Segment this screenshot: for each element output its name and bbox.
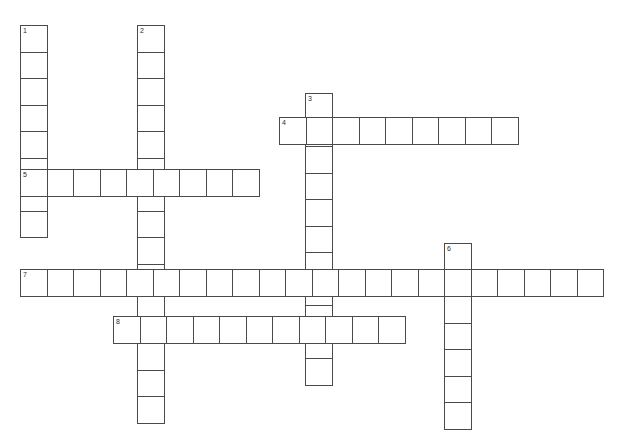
crossword-cell[interactable]	[444, 269, 472, 297]
crossword-cell[interactable]	[137, 105, 165, 133]
crossword-cell[interactable]	[140, 316, 168, 344]
crossword-cell[interactable]: 1	[20, 25, 48, 53]
clue-number-6: 6	[447, 245, 451, 253]
crossword-cell[interactable]	[471, 269, 499, 297]
crossword-cell[interactable]	[305, 146, 333, 174]
crossword-cell[interactable]	[444, 323, 472, 351]
crossword-cell[interactable]	[305, 199, 333, 227]
crossword-cell[interactable]	[524, 269, 552, 297]
crossword-cell[interactable]	[20, 105, 48, 133]
crossword-cell[interactable]	[232, 169, 260, 197]
crossword-cell[interactable]	[100, 169, 128, 197]
crossword-cell[interactable]	[137, 370, 165, 398]
crossword-cell[interactable]	[325, 316, 353, 344]
crossword-cell[interactable]	[444, 349, 472, 377]
crossword-cell[interactable]: 5	[20, 169, 48, 197]
crossword-cell[interactable]	[359, 117, 387, 145]
clue-number-8: 8	[116, 318, 120, 326]
crossword-cell[interactable]	[126, 269, 154, 297]
crossword-cell[interactable]	[193, 316, 221, 344]
crossword-cell[interactable]	[153, 269, 181, 297]
crossword-cell[interactable]	[444, 376, 472, 404]
crossword-cell[interactable]	[465, 117, 493, 145]
crossword-cell[interactable]	[338, 269, 366, 297]
crossword-cell[interactable]	[179, 169, 207, 197]
crossword-cell[interactable]: 4	[279, 117, 307, 145]
crossword-cell[interactable]	[378, 316, 406, 344]
crossword-cell[interactable]	[259, 269, 287, 297]
crossword-cell[interactable]	[137, 52, 165, 80]
clue-number-2: 2	[140, 27, 144, 35]
crossword-cell[interactable]	[219, 316, 247, 344]
crossword-cell[interactable]	[365, 269, 393, 297]
crossword-cell[interactable]	[418, 269, 446, 297]
crossword-grid[interactable]: 12345678	[0, 0, 632, 436]
crossword-cell[interactable]	[137, 343, 165, 371]
crossword-cell[interactable]	[332, 117, 360, 145]
crossword-cell[interactable]	[137, 211, 165, 239]
clue-number-7: 7	[23, 271, 27, 279]
crossword-cell[interactable]	[438, 117, 466, 145]
crossword-cell[interactable]: 2	[137, 25, 165, 53]
crossword-cell[interactable]	[206, 269, 234, 297]
crossword-cell[interactable]	[299, 316, 327, 344]
crossword-cell[interactable]	[20, 211, 48, 239]
crossword-cell[interactable]	[20, 78, 48, 106]
crossword-cell[interactable]	[73, 169, 101, 197]
crossword-cell[interactable]	[20, 131, 48, 159]
crossword-cell[interactable]	[20, 52, 48, 80]
crossword-cell[interactable]	[305, 358, 333, 386]
crossword-cell[interactable]	[166, 316, 194, 344]
crossword-cell[interactable]	[47, 169, 75, 197]
crossword-cell[interactable]	[306, 117, 334, 145]
crossword-cell[interactable]	[352, 316, 380, 344]
crossword-cell[interactable]	[497, 269, 525, 297]
crossword-cell[interactable]	[73, 269, 101, 297]
crossword-cell[interactable]	[444, 296, 472, 324]
crossword-cell[interactable]	[577, 269, 605, 297]
crossword-cell[interactable]	[100, 269, 128, 297]
clue-number-5: 5	[23, 171, 27, 179]
crossword-cell[interactable]	[137, 237, 165, 265]
crossword-cell[interactable]	[305, 173, 333, 201]
crossword-cell[interactable]	[126, 169, 154, 197]
crossword-cell[interactable]: 8	[113, 316, 141, 344]
crossword-cell[interactable]	[272, 316, 300, 344]
crossword-cell[interactable]	[246, 316, 274, 344]
crossword-cell[interactable]	[305, 226, 333, 254]
crossword-cell[interactable]	[391, 269, 419, 297]
crossword-cell[interactable]	[312, 269, 340, 297]
clue-number-4: 4	[282, 119, 286, 127]
clue-number-3: 3	[308, 95, 312, 103]
crossword-cell[interactable]	[137, 131, 165, 159]
crossword-cell[interactable]	[153, 169, 181, 197]
crossword-cell[interactable]: 7	[20, 269, 48, 297]
crossword-cell[interactable]	[179, 269, 207, 297]
clue-number-1: 1	[23, 27, 27, 35]
crossword-cell[interactable]	[137, 396, 165, 424]
crossword-cell[interactable]	[385, 117, 413, 145]
crossword-cell[interactable]	[491, 117, 519, 145]
crossword-cell[interactable]	[285, 269, 313, 297]
crossword-cell[interactable]	[206, 169, 234, 197]
crossword-cell[interactable]	[137, 78, 165, 106]
crossword-cell[interactable]	[550, 269, 578, 297]
crossword-cell[interactable]	[412, 117, 440, 145]
crossword-cell[interactable]	[444, 402, 472, 430]
crossword-cell[interactable]	[47, 269, 75, 297]
crossword-cell[interactable]: 6	[444, 243, 472, 271]
crossword-cell[interactable]	[232, 269, 260, 297]
